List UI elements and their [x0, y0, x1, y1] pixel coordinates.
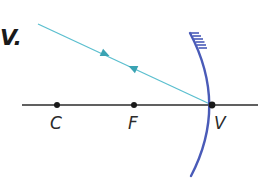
label-c: C: [50, 115, 62, 132]
part-label: V.: [0, 27, 22, 49]
label-v: V: [214, 115, 226, 132]
point-c: [54, 102, 60, 108]
label-f: F: [128, 115, 138, 132]
concave-mirror-diagram: [0, 0, 268, 182]
light-ray: [38, 24, 212, 105]
point-v: [209, 102, 216, 109]
ray-arrow-reflected-icon: [127, 62, 139, 73]
point-f: [131, 102, 137, 108]
ray-arrow-incident-icon: [100, 49, 112, 60]
